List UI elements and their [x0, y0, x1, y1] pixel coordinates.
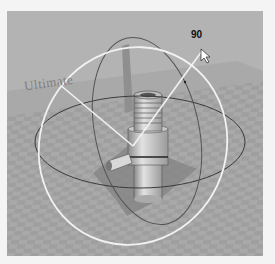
scene-canvas[interactable] [7, 11, 263, 256]
rotation-angle-readout: 90 [191, 29, 202, 40]
3d-viewport[interactable]: Ultimate [7, 11, 263, 256]
